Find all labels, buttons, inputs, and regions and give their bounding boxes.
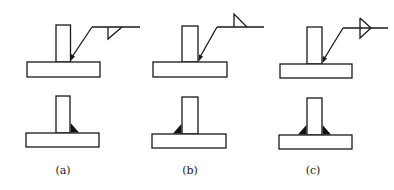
arrowhead-icon xyxy=(199,55,204,62)
vertical-plate xyxy=(56,25,71,62)
arrow-line xyxy=(324,28,343,59)
panel-a-weld-result xyxy=(26,96,99,147)
base-plate xyxy=(279,135,352,149)
panel-b: (b) xyxy=(152,14,264,177)
panel-a-symbol-drawing xyxy=(27,25,140,77)
fillet-weld-symbol-icon xyxy=(108,27,122,39)
vertical-plate xyxy=(307,98,322,135)
fillet-weld-left-icon xyxy=(298,125,306,134)
base-plate xyxy=(153,62,227,77)
fillet-weld-right-icon xyxy=(71,123,79,132)
panel-c-weld-result xyxy=(279,98,352,149)
vertical-plate xyxy=(182,97,198,134)
fillet-weld-symbol-icon xyxy=(234,14,247,27)
base-plate xyxy=(27,62,100,77)
panel-b-symbol-drawing xyxy=(153,14,264,77)
fillet-weld-left-icon xyxy=(173,124,181,133)
base-plate xyxy=(280,64,352,78)
vertical-plate xyxy=(182,26,198,62)
panel-label-b: (b) xyxy=(182,164,198,177)
base-plate xyxy=(26,133,99,147)
panel-c-symbol-drawing xyxy=(280,18,388,78)
panel-label-a: (a) xyxy=(55,164,70,177)
vertical-plate xyxy=(56,96,70,133)
panel-a: (a) xyxy=(26,25,140,177)
arrow-line xyxy=(200,27,217,57)
panel-b-weld-result xyxy=(152,97,226,148)
panel-label-c: (c) xyxy=(306,164,321,177)
fillet-weld-right-icon xyxy=(323,125,331,134)
base-plate xyxy=(152,134,226,148)
vertical-plate xyxy=(307,27,322,64)
weld-symbol-diagram: (a) (b) xyxy=(0,0,394,190)
panel-c: (c) xyxy=(279,18,388,177)
arrow-line xyxy=(72,27,92,57)
